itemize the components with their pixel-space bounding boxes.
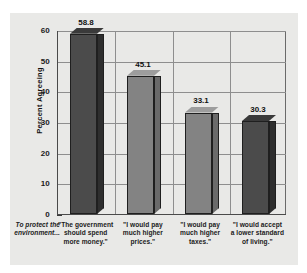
x-axis-lead-label: To protect theenvironment... [10, 221, 60, 238]
y-tick-mark [57, 215, 62, 216]
x-axis-category-line: "I would pay [111, 221, 175, 229]
gridline-vertical [230, 31, 231, 214]
x-axis-category-line: should spend [54, 229, 118, 237]
x-axis-category-line: more money." [54, 238, 118, 246]
x-axis-category-line: "The government [54, 221, 118, 229]
x-axis-category-line: taxes." [168, 238, 232, 246]
bar [127, 76, 154, 214]
bar-side-face [269, 121, 276, 214]
x-axis-category-line: much higher [168, 229, 232, 237]
bar-value-label: 58.8 [63, 18, 109, 27]
bar-value-label: 33.1 [178, 96, 224, 105]
x-axis-category-line: a lower standard [225, 229, 289, 237]
y-tick-label: 60 [24, 27, 50, 35]
bar-value-label: 30.3 [235, 105, 281, 114]
y-tick-label: 10 [24, 180, 50, 188]
y-tick-label: 20 [24, 150, 50, 158]
bar-front-face [242, 121, 269, 214]
x-axis-category-line: prices." [111, 238, 175, 246]
bar-chart-figure: Percent Agreeing 0102030405060 58.845.13… [0, 0, 307, 273]
bar-side-face [154, 76, 161, 214]
bar [185, 113, 212, 215]
bar-front-face [127, 76, 154, 214]
bar-front-face [70, 34, 97, 214]
x-axis-category-line: much higher [111, 229, 175, 237]
x-axis-category-label: "The governmentshould spendmore money." [54, 221, 118, 246]
y-tick-label: 40 [24, 88, 50, 96]
gridline-vertical [173, 31, 174, 214]
y-tick-label: 50 [24, 58, 50, 66]
plot-area [57, 31, 286, 215]
x-axis-labels: To protect theenvironment..."The governm… [10, 221, 298, 265]
bar-side-face [212, 113, 219, 215]
bar [242, 121, 269, 214]
x-axis-category-line: "I would accept [225, 221, 289, 229]
bar-front-face [185, 113, 212, 215]
x-axis-category-line: "I would pay [168, 221, 232, 229]
x-axis-category-label: "I would paymuch highertaxes." [168, 221, 232, 246]
gridline-vertical [115, 31, 116, 214]
x-axis-category-label: "I would paymuch higherprices." [111, 221, 175, 246]
bar-side-face [97, 34, 104, 214]
x-axis-category-line: of living." [225, 238, 289, 246]
y-tick-label: 0 [24, 211, 50, 219]
x-axis-category-label: "I would accepta lower standardof living… [225, 221, 289, 246]
bar [70, 34, 97, 214]
y-tick-label: 30 [24, 119, 50, 127]
bar-value-label: 45.1 [120, 60, 166, 69]
